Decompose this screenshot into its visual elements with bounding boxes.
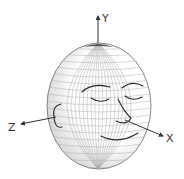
x-axis-label: X	[166, 132, 174, 145]
z-axis-label: Z	[8, 121, 16, 134]
head-ellipsoid	[47, 43, 151, 169]
y-axis: Y	[98, 12, 109, 44]
y-axis-label: Y	[101, 12, 109, 25]
head-axes-diagram: Y	[0, 0, 184, 179]
